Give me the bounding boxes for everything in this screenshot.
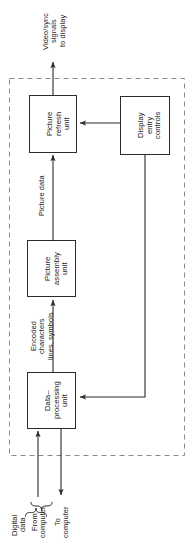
display-entry-controls-label: Display entry controls — [137, 98, 151, 153]
block-diagram-canvas — [0, 0, 194, 553]
connector-controls-to-dpu — [80, 155, 145, 398]
video-sync-output-label: Video/sync signals to display — [42, 6, 64, 56]
data-processing-unit-label: Data– processing unit — [44, 374, 58, 427]
digital-data-label: Digital data — [11, 508, 27, 542]
encoded-characters-label: Encoded characters lines, symbols — [30, 305, 52, 367]
to-computer-label: To computer — [54, 503, 70, 541]
picture-assembly-unit-label: Picture assembly unit — [44, 242, 58, 295]
from-computer-label: From computer — [31, 503, 47, 541]
picture-data-label: Picture data — [38, 165, 47, 227]
picture-refresh-unit-label: Picture refresh unit — [46, 97, 60, 151]
